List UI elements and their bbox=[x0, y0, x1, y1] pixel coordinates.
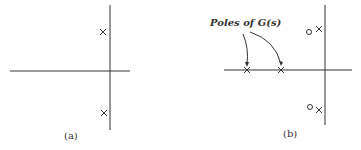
arrow-to-pole-1 bbox=[243, 34, 248, 64]
pole-icon bbox=[316, 26, 322, 32]
zero-icon bbox=[307, 30, 312, 35]
pole-icon bbox=[100, 29, 106, 35]
root-locus-figure: Poles of G(s) (a) (b) bbox=[0, 0, 361, 150]
zero-icon bbox=[308, 105, 313, 110]
pole-icon bbox=[316, 107, 322, 113]
arrow-to-pole-2 bbox=[250, 32, 281, 64]
poles-annotation: Poles of G(s) bbox=[210, 17, 281, 28]
panel-label-a: (a) bbox=[64, 130, 78, 141]
diagram-canvas bbox=[0, 0, 361, 150]
panel-label-b: (b) bbox=[283, 128, 297, 139]
pole-icon bbox=[101, 110, 107, 116]
